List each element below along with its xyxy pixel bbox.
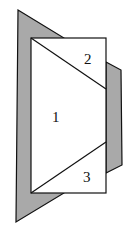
- main-rectangle: [31, 38, 106, 193]
- right-shaded-panel: [106, 62, 122, 173]
- region-label-3: 3: [83, 169, 91, 185]
- region-label-2: 2: [84, 51, 92, 67]
- diagram-canvas: 1 2 3: [0, 0, 132, 235]
- region-label-1: 1: [52, 109, 60, 125]
